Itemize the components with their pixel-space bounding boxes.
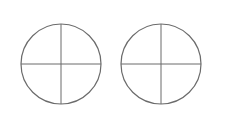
circle-right: [121, 24, 201, 104]
diagram-canvas: [0, 0, 228, 126]
circle-left: [21, 24, 101, 104]
